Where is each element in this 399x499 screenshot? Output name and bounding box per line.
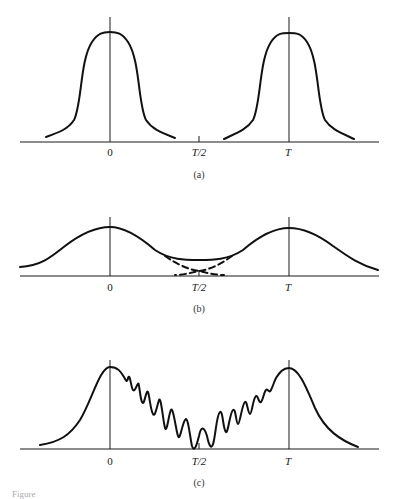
tick-label-c-0: 0 <box>107 455 113 467</box>
footer-figure-fragment: Figure <box>12 489 36 499</box>
caption-b: (b) <box>193 303 205 314</box>
tick-label-a-half: T/2 <box>192 146 207 158</box>
pulse-b-sum <box>20 227 378 270</box>
tick-label-b-half: T/2 <box>192 281 207 293</box>
caption-c: (c) <box>193 477 204 488</box>
caption-a: (a) <box>193 169 204 180</box>
pulse-c-ringing <box>40 367 358 449</box>
tick-label-a-T: T <box>285 146 291 158</box>
tick-label-a-0: 0 <box>107 146 113 158</box>
tick-label-b-T: T <box>285 281 291 293</box>
tick-label-c-half: T/2 <box>192 455 207 467</box>
tick-label-b-0: 0 <box>107 281 113 293</box>
tick-label-c-T: T <box>285 455 291 467</box>
